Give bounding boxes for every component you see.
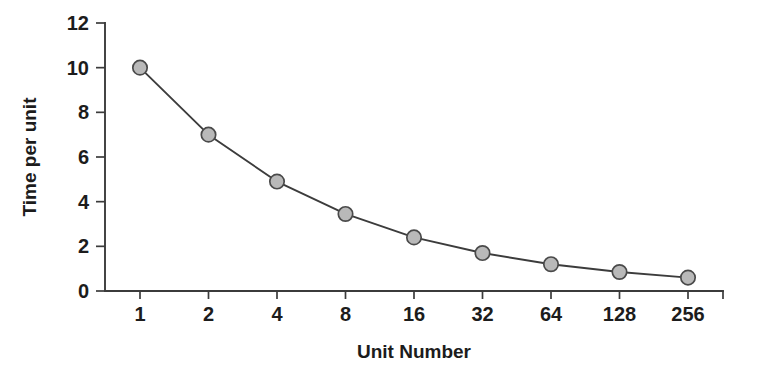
x-tick-label: 4 <box>271 303 283 325</box>
series-line-time-per-unit <box>140 68 688 278</box>
y-axis-title: Time per unit <box>19 97 40 217</box>
data-point-marker <box>201 127 215 141</box>
x-tick-label: 8 <box>340 303 351 325</box>
data-point-marker <box>407 230 421 244</box>
y-axis-ticks: 024681012 <box>67 12 105 302</box>
x-tick-label: 64 <box>540 303 563 325</box>
x-axis-title: Unit Number <box>357 341 472 362</box>
axes-group <box>105 23 723 291</box>
y-tick-label: 4 <box>78 191 90 213</box>
series-markers-time-per-unit <box>133 60 695 284</box>
x-tick-label: 256 <box>671 303 704 325</box>
data-point-marker <box>133 60 147 74</box>
data-point-marker <box>612 265 626 279</box>
y-tick-label: 12 <box>67 12 89 34</box>
x-tick-label: 128 <box>603 303 636 325</box>
x-tick-label: 32 <box>471 303 493 325</box>
learning-curve-chart: 024681012 1248163264128256 Unit Number T… <box>0 0 758 375</box>
y-tick-label: 10 <box>67 57 89 79</box>
x-tick-label: 16 <box>403 303 425 325</box>
data-point-marker <box>475 246 489 260</box>
chart-canvas: 024681012 1248163264128256 Unit Number T… <box>0 0 758 375</box>
y-tick-label: 2 <box>78 235 89 257</box>
data-point-marker <box>338 207 352 221</box>
data-point-marker <box>544 257 558 271</box>
data-series-group <box>133 60 695 284</box>
x-tick-label: 2 <box>203 303 214 325</box>
x-axis-ticks: 1248163264128256 <box>134 291 723 325</box>
y-tick-label: 0 <box>78 280 89 302</box>
y-tick-label: 6 <box>78 146 89 168</box>
data-point-marker <box>681 270 695 284</box>
data-point-marker <box>270 174 284 188</box>
x-tick-label: 1 <box>134 303 145 325</box>
y-tick-label: 8 <box>78 101 89 123</box>
